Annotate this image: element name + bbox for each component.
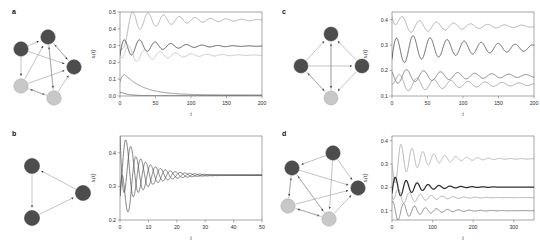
y-axis-label: xᵢ(t) <box>90 50 97 60</box>
panel-c: c 0.10.20.30.4050100150200txᵢ(t) <box>270 0 540 124</box>
panel-b-plot-svg: 0.20.30.401020304050txᵢ(t) <box>86 128 268 246</box>
x-axis-label: t <box>462 111 464 117</box>
panel-a: a 0.00.10.20.30.40.5050100150200txᵢ(t) <box>0 0 270 124</box>
x-tick-label: 100 <box>459 100 468 106</box>
x-axis-label: t <box>462 235 464 241</box>
panel-d: d 0.10.20.30.40100200300txᵢ(t) <box>270 124 540 248</box>
x-tick-label: 20 <box>174 224 180 230</box>
figure-canvas: a 0.00.10.20.30.40.5050100150200txᵢ(t) b… <box>0 0 540 248</box>
network-edge <box>298 209 322 217</box>
y-tick-label: 0.2 <box>109 217 116 223</box>
x-tick-label: 150 <box>222 100 231 106</box>
network-edge <box>41 171 75 189</box>
network-edge <box>338 71 357 90</box>
y-axis-label: xᵢ(t) <box>362 50 369 60</box>
network-edge <box>53 43 67 59</box>
x-tick-label: 40 <box>231 224 237 230</box>
network-edge <box>330 161 333 209</box>
y-tick-label: 0.0 <box>109 93 116 99</box>
y-tick-label: 0.4 <box>109 150 116 156</box>
x-tick-label: 100 <box>428 224 437 230</box>
x-tick-label: 100 <box>187 100 196 106</box>
x-tick-label: 200 <box>469 224 478 230</box>
network-node-dark <box>294 59 308 73</box>
network-node-dark <box>324 27 338 41</box>
y-tick-label: 0.1 <box>381 208 388 214</box>
network-node-dark <box>14 42 28 56</box>
x-tick-label: 200 <box>258 100 267 106</box>
series-line <box>392 70 534 84</box>
panel-a-plot: 0.00.10.20.30.40.5050100150200txᵢ(t) <box>86 4 268 122</box>
panel-d-plot-svg: 0.10.20.30.40100200300txᵢ(t) <box>358 128 540 246</box>
panel-b-plot: 0.20.30.401020304050txᵢ(t) <box>86 128 268 246</box>
network-edge <box>31 89 47 95</box>
x-tick-label: 30 <box>202 224 208 230</box>
x-tick-label: 0 <box>119 100 122 106</box>
network-node-light <box>324 91 338 105</box>
y-tick-label: 0.1 <box>381 93 388 99</box>
network-edge <box>306 41 324 60</box>
node-group <box>281 146 365 226</box>
series-line <box>392 144 534 182</box>
x-tick-label: 300 <box>509 224 518 230</box>
network-edge <box>289 176 291 196</box>
network-edge <box>39 198 73 215</box>
series-line <box>120 140 262 197</box>
y-tick-label: 0.3 <box>109 43 116 49</box>
y-tick-label: 0.3 <box>381 161 388 167</box>
y-tick-label: 0.4 <box>381 17 388 23</box>
network-node-light <box>47 91 61 105</box>
series-line <box>120 157 262 212</box>
network-edge <box>306 72 324 91</box>
curve-group <box>392 16 534 91</box>
series-line <box>120 12 262 51</box>
x-axis-label: t <box>190 235 192 241</box>
series-line <box>392 16 534 32</box>
y-tick-label: 0.2 <box>109 59 116 65</box>
edge-group <box>32 171 76 214</box>
network-edge <box>334 195 351 213</box>
panel-b-letter: b <box>12 130 16 137</box>
y-axis-label: xᵢ(t) <box>90 174 97 184</box>
curve-group <box>120 134 262 212</box>
network-edge <box>297 174 323 210</box>
x-tick-label: 0 <box>391 224 394 230</box>
panel-a-plot-svg: 0.00.10.20.30.40.5050100150200txᵢ(t) <box>86 4 268 122</box>
y-tick-label: 0.4 <box>109 26 116 32</box>
y-tick-label: 0.2 <box>381 184 388 190</box>
network-edge <box>338 159 353 179</box>
panel-d-plot: 0.10.20.30.40100200300txᵢ(t) <box>358 128 540 246</box>
node-group <box>14 30 81 105</box>
network-node-dark <box>24 158 39 173</box>
x-tick-label: 200 <box>530 100 539 106</box>
network-edge <box>58 76 68 92</box>
panel-c-plot-svg: 0.10.20.30.4050100150200txᵢ(t) <box>358 4 540 122</box>
network-edge <box>302 156 326 165</box>
network-node-dark <box>326 146 340 160</box>
network-node-dark <box>24 210 39 225</box>
network-edge <box>299 170 348 185</box>
panel-a-network-svg <box>4 14 92 114</box>
curve-group <box>120 12 262 96</box>
x-tick-label: 0 <box>119 224 122 230</box>
network-edge <box>28 52 64 64</box>
y-tick-label: 0.3 <box>381 42 388 48</box>
y-tick-label: 0.2 <box>381 67 388 73</box>
network-node-dark <box>41 30 55 44</box>
panel-a-network <box>4 14 92 114</box>
network-edge <box>49 45 53 88</box>
network-node-dark <box>285 161 299 175</box>
series-line <box>120 46 262 62</box>
y-tick-label: 0.1 <box>109 76 116 82</box>
y-tick-label: 0.5 <box>109 9 116 15</box>
y-tick-label: 0.3 <box>109 183 116 189</box>
x-tick-label: 0 <box>391 100 394 106</box>
x-tick-label: 150 <box>494 100 503 106</box>
x-axis-label: t <box>190 111 192 117</box>
series-line <box>392 177 534 195</box>
x-tick-label: 50 <box>259 224 265 230</box>
y-tick-label: 0.4 <box>381 138 388 144</box>
panel-b-network <box>6 138 98 238</box>
x-tick-label: 50 <box>153 100 159 106</box>
network-edge <box>338 41 357 60</box>
